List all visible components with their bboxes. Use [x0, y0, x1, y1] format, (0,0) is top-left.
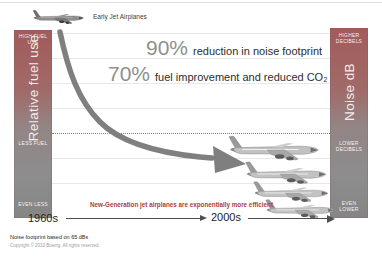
- timeline-axis-left-segment: [66, 218, 200, 219]
- noise-stat-label: reduction in noise footprint: [193, 45, 322, 57]
- gridline: [52, 108, 331, 109]
- right-axis-bottom-label: EVEN LOWER: [334, 200, 364, 213]
- timeline-start-label: 1960s: [28, 212, 58, 224]
- gridline: [52, 33, 331, 34]
- timeline-axis-right-segment: [248, 218, 328, 219]
- noise-stat-value: 90%: [146, 36, 188, 60]
- footnote: Noise footprint based on 65 dBs: [10, 234, 88, 240]
- timeline-end-label: 2000s: [211, 211, 241, 223]
- early-jet-label: Early Jet Airplanes: [93, 13, 147, 20]
- fuel-stat: 70% fuel improvement and reduced CO₂: [108, 62, 327, 86]
- fuel-stat-label: fuel improvement and reduced CO₂: [155, 71, 327, 83]
- copyright-line: Copyright © 2010 Boeing. All rights rese…: [10, 243, 100, 248]
- new-gen-caption: New-Generation jet airplanes are exponen…: [90, 201, 273, 208]
- timeline-arrow-right-icon: [327, 215, 335, 223]
- right-axis-middle-label: LOWER DECIBELS: [334, 140, 364, 153]
- boeing-efficiency-slide: HIGH FUEL USE LESS FUEL EVEN LESS Relati…: [0, 0, 382, 256]
- right-axis-bar: HIGHER DECIBELS LOWER DECIBELS EVEN LOWE…: [330, 28, 368, 218]
- slide-top-border: [0, 2, 382, 3]
- early-jet-airplane-icon: [28, 9, 90, 26]
- noise-stat: 90% reduction in noise footprint: [146, 36, 322, 60]
- left-axis-title: Relative fuel use: [26, 35, 41, 142]
- right-axis-top-label: HIGHER DECIBELS: [334, 32, 364, 45]
- fuel-stat-value: 70%: [108, 62, 150, 86]
- timeline-arrow-icon: [200, 215, 207, 221]
- left-axis-bottom-label: EVEN LESS: [18, 201, 48, 207]
- right-axis-title: Noise dB: [342, 63, 357, 121]
